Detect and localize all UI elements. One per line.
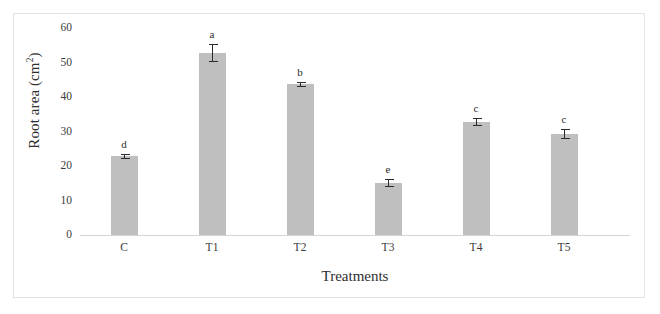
y-axis-tick-label: 40 — [42, 91, 72, 103]
x-axis-category-label-t1: T1 — [168, 241, 256, 253]
bar-group-t2: bT2 — [256, 0, 344, 314]
bar-t4 — [463, 122, 490, 235]
bar-group-c: dC — [80, 0, 168, 314]
y-axis-title-base: Root area (cm — [26, 62, 42, 148]
error-bar-t3 — [388, 179, 389, 187]
y-axis-tick-label: 20 — [42, 160, 72, 172]
significance-letter-t3: e — [344, 164, 432, 175]
error-bar-c — [124, 154, 125, 160]
y-axis-title-superscript: 2 — [25, 58, 35, 63]
error-bar-t2 — [300, 82, 301, 87]
significance-letter-c: d — [80, 139, 168, 150]
bar-t1 — [199, 53, 226, 235]
x-axis-category-label-t4: T4 — [432, 241, 520, 253]
bar-group-t4: cT4 — [432, 0, 520, 314]
bar-group-t1: aT1 — [168, 0, 256, 314]
bar-chart-plot-area: 0102030405060 Root area (cm2) dCaT1bT2eT… — [0, 0, 660, 314]
y-axis-tick-label: 60 — [42, 22, 72, 34]
bar-t5 — [551, 134, 578, 235]
significance-letter-t5: c — [520, 114, 608, 125]
y-axis-title: Root area (cm2) — [26, 21, 43, 181]
y-axis-tick-label: 0 — [42, 229, 72, 241]
bar-c — [111, 156, 138, 235]
significance-letter-t4: c — [432, 103, 520, 114]
error-bar-t5 — [564, 129, 565, 139]
y-axis-tick-label: 50 — [42, 57, 72, 69]
bar-group-t5: cT5 — [520, 0, 608, 314]
bar-group-t3: eT3 — [344, 0, 432, 314]
x-axis-category-label-t5: T5 — [520, 241, 608, 253]
y-axis-tick-label: 30 — [42, 126, 72, 138]
x-axis-category-label-t2: T2 — [256, 241, 344, 253]
bar-t3 — [375, 183, 402, 235]
significance-letter-t2: b — [256, 67, 344, 78]
y-axis-title-tail: ) — [26, 52, 42, 57]
x-axis-title: Treatments — [80, 268, 630, 285]
error-bar-t1 — [212, 44, 213, 62]
y-axis-tick-label: 10 — [42, 195, 72, 207]
x-axis-category-label-c: C — [80, 241, 168, 253]
significance-letter-t1: a — [168, 29, 256, 40]
x-axis-category-label-t3: T3 — [344, 241, 432, 253]
error-bar-t4 — [476, 118, 477, 126]
bar-t2 — [287, 84, 314, 235]
